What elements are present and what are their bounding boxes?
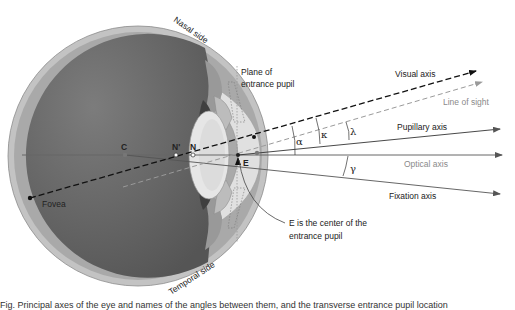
label-plane-line2: entrance pupil: [241, 79, 295, 89]
label-pupil-center: E: [243, 158, 249, 168]
center-point: [123, 153, 127, 157]
alpha-arc: [292, 126, 295, 155]
label-fixation-axis: Fixation axis: [389, 191, 436, 201]
visual-axis-cornea-point: [252, 135, 256, 139]
nodal-front-point: [191, 153, 195, 157]
nodal-rear-point: [174, 153, 178, 157]
kappa-arc: [316, 118, 320, 144]
label-visual-axis: Visual axis: [395, 69, 435, 79]
cornea-vertex-point: [255, 151, 259, 155]
label-fovea: Fovea: [42, 199, 66, 209]
label-optical-axis: Optical axis: [404, 159, 448, 169]
lambda-arc: [346, 122, 349, 140]
label-plane-line1: Plane of: [241, 67, 273, 77]
label-angle-alpha: α: [296, 136, 303, 147]
label-center: C: [121, 142, 127, 152]
label-angle-lambda: λ: [350, 126, 357, 137]
annotation-line2: entrance pupil: [289, 231, 343, 241]
label-angle-gamma: γ: [350, 163, 356, 174]
gamma-arc: [343, 156, 348, 176]
label-nodal-front: N: [190, 142, 196, 152]
label-line-of-sight: Line of sight: [443, 97, 489, 107]
annotation-line1: E is the center of the: [289, 218, 367, 228]
label-angle-kappa: κ: [321, 129, 328, 140]
fovea-point: [28, 196, 32, 200]
figure-caption: Fig. Principal axes of the eye and names…: [0, 300, 515, 310]
label-nodal-rear: N': [172, 142, 180, 152]
pupil-center-point: [236, 153, 240, 157]
label-pupillary-axis: Pupillary axis: [397, 122, 447, 132]
